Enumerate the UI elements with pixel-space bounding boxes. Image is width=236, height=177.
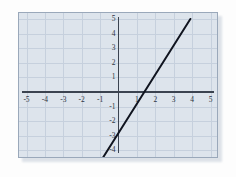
chart-page: -5-4-3-2-112345 54321-1-2-3-4-5 <box>0 0 236 177</box>
line-series-y-equals-2x-minus-3 <box>99 19 190 158</box>
coordinate-plane-panel: -5-4-3-2-112345 54321-1-2-3-4-5 <box>18 12 218 158</box>
line-series-layer <box>19 13 217 158</box>
plot-area: -5-4-3-2-112345 54321-1-2-3-4-5 <box>19 13 217 157</box>
